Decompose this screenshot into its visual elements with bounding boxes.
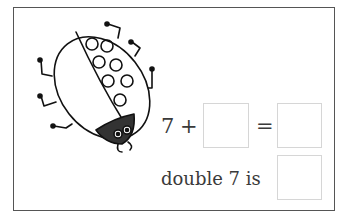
double-prompt-label: double 7 is	[161, 170, 261, 188]
addend-seven: 7	[161, 116, 174, 137]
missing-addend-box[interactable]	[203, 103, 249, 148]
double-answer-box[interactable]	[277, 155, 322, 200]
sum-answer-box[interactable]	[277, 103, 322, 148]
equals-sign: =	[256, 116, 274, 137]
plus-sign: +	[180, 116, 198, 137]
ladybug-icon	[30, 14, 160, 164]
